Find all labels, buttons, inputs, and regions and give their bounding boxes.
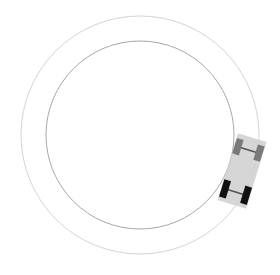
simulation-canvas — [0, 0, 280, 275]
